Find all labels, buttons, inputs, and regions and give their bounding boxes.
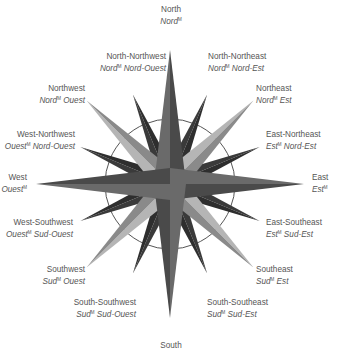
label-northeast: Northeast NordM Est <box>256 84 292 106</box>
label-northwest: Northwest NordM Ouest <box>39 84 85 106</box>
label-west-northwest: West-Northwest OuestM Nord-Ouest <box>5 130 75 152</box>
label-north-northwest: North-Northwest NordM Nord-Ouest <box>100 52 166 74</box>
label-east-southeast: East-Southeast EstM Sud-Est <box>266 218 322 240</box>
label-southwest: Southwest SudM Ouest <box>43 265 85 287</box>
label-south-southwest: South-Southwest SudM Sud-Ouest <box>74 298 136 320</box>
label-southeast: Southeast SudM Est <box>256 265 293 287</box>
label-east: East EstM <box>312 173 328 195</box>
label-south: South <box>160 341 181 351</box>
label-west-southwest: West-Southwest OuestM Sud-Ouest <box>6 218 73 240</box>
compass-rose <box>0 0 341 354</box>
label-south-southeast: South-Southeast SudM Sud-Est <box>207 298 268 320</box>
label-north-northeast: North-Northeast NordM Nord-Est <box>208 52 266 74</box>
label-west: West OuestM <box>1 173 27 195</box>
label-north: North NordM <box>160 5 182 27</box>
label-east-northeast: East-Northeast EstM Nord-Est <box>266 130 321 152</box>
